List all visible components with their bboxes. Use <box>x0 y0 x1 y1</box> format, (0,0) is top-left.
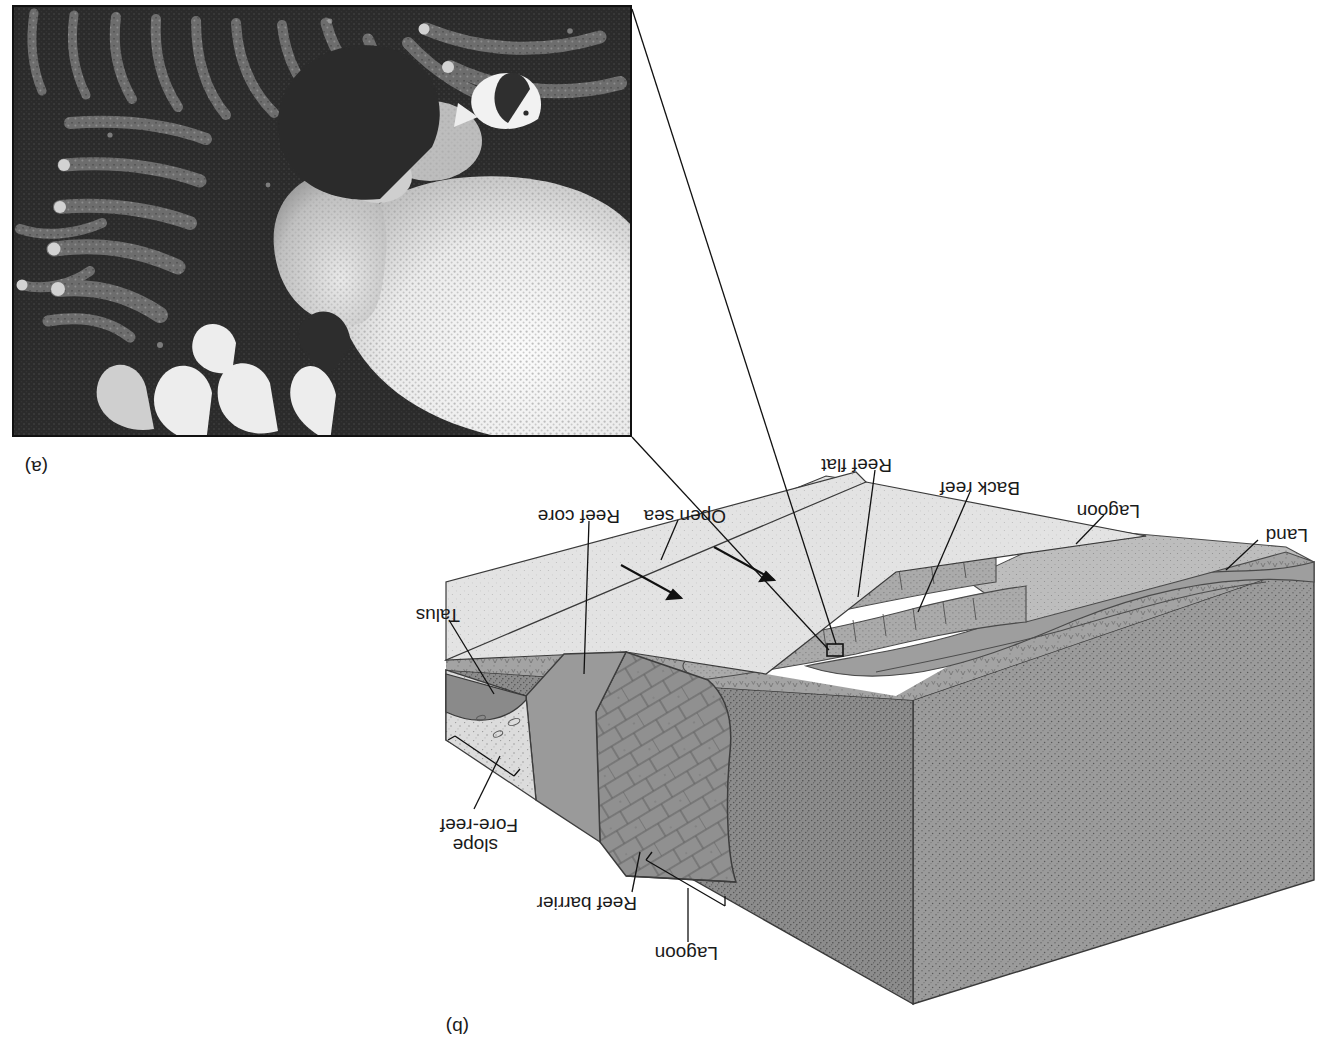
label-open-sea: Open sea <box>644 506 726 527</box>
label-back-reef: Back reef <box>940 478 1020 499</box>
panel-tag-b: (b) <box>446 1016 469 1038</box>
label-lagoon-left: Lagoon <box>1077 501 1140 522</box>
label-talus: Talus <box>416 605 460 626</box>
coral-reef-photograph <box>12 5 632 437</box>
label-fore-reef-slope-line2: slope <box>453 835 498 856</box>
label-reef-barrier: Reef barrier <box>537 893 637 914</box>
label-reef-core: Reef core <box>538 506 620 527</box>
label-reef-flat: Reef flat <box>821 455 892 476</box>
label-lagoon-top: Lagoon <box>655 943 718 964</box>
figure-root: Land Lagoon Back reef Reef flat Open sea… <box>0 0 1326 1052</box>
label-land: Land <box>1266 525 1308 546</box>
block-body <box>446 472 1314 1004</box>
label-fore-reef-slope-line1: Fore-reef <box>440 815 518 836</box>
panel-tag-a: (a) <box>25 456 48 478</box>
photo-content <box>14 7 630 435</box>
